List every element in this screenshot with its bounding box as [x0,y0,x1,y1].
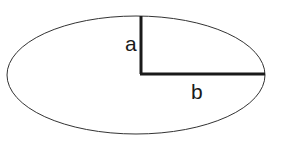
semi-minor-label: a [125,32,137,55]
ellipse-diagram: a b [0,0,286,144]
semi-major-label: b [191,80,203,103]
